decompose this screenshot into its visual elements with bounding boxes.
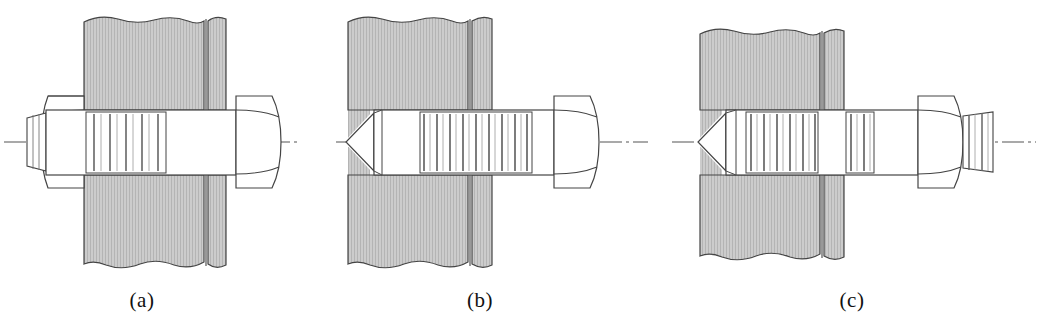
stud-thread-zone-outer-c: [846, 112, 874, 173]
figure-sheet: (a) (b) (c): [0, 0, 1040, 327]
hex-head-a: [236, 96, 281, 188]
stud-thread-zone-inner-c: [746, 112, 818, 173]
bolt-thread-zone-a: [86, 112, 166, 173]
engineering-drawing-canvas: [0, 0, 1040, 327]
screw-point-chamfer-b: [374, 110, 382, 175]
panel-caption-b: (b): [440, 288, 520, 313]
screw-thread-zone-b: [420, 112, 532, 173]
stud-protruding-end-c: [963, 112, 993, 172]
hex-nut-c: [918, 96, 963, 188]
panel-caption-c: (c): [812, 288, 892, 313]
bolt-end-thread-a: [27, 113, 46, 171]
panel-caption-a: (a): [102, 288, 182, 313]
stud-point-chamfer-c: [726, 110, 736, 175]
hex-head-b: [554, 96, 599, 188]
